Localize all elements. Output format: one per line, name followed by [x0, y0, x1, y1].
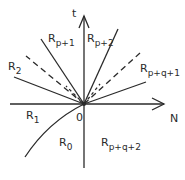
- origin-point: [82, 102, 86, 106]
- origin-label: 0: [76, 111, 83, 124]
- region-label-r0: R0: [59, 136, 73, 152]
- region-label-r2: R2: [8, 60, 21, 76]
- boundary-line-r2: [14, 77, 84, 104]
- region-label-rpq2: Rp+q+2: [101, 136, 141, 152]
- region-label-rp2: Rp+2: [87, 32, 114, 48]
- axis-label-t: t: [72, 7, 77, 20]
- boundary-line-rp1: [41, 39, 84, 104]
- axis-label-n: N: [170, 112, 178, 125]
- region-label-rp1: Rp+1: [48, 32, 75, 48]
- region-label-r1: R1: [26, 109, 39, 125]
- dashed-boundary-right: [84, 53, 140, 104]
- region-diagram: t N 0 Rp+1 Rp+2 R2 Rp+q+1 R1 R0 Rp+q+2: [0, 0, 185, 180]
- region-label-rpq1: Rp+q+1: [140, 62, 180, 78]
- dashed-boundary-left: [26, 56, 84, 104]
